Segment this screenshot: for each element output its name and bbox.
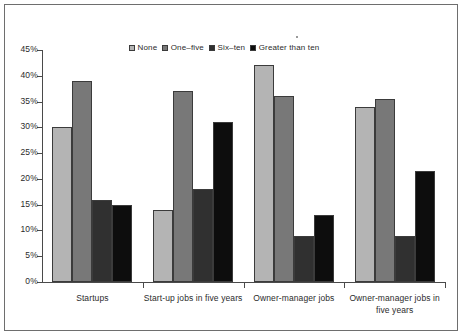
y-axis-tick-label: 45% xyxy=(20,44,38,54)
bar xyxy=(173,91,193,282)
bar xyxy=(193,189,213,282)
y-axis-tick-label: 5% xyxy=(25,250,38,260)
x-axis-group-label: Start-up jobs in five years xyxy=(143,292,244,304)
x-axis-tick-mark xyxy=(244,283,245,288)
bar xyxy=(294,236,314,282)
bar-group-bars xyxy=(143,50,244,282)
x-axis-tick-mark xyxy=(344,283,345,288)
x-axis-group-label: Startups xyxy=(42,292,143,304)
bar xyxy=(72,81,92,282)
scan-speck xyxy=(296,36,298,38)
bar xyxy=(213,122,233,282)
bar xyxy=(153,210,173,282)
bar-group-bars xyxy=(344,50,445,282)
y-axis-tick-label: 40% xyxy=(20,70,38,80)
x-axis-group-label: Owner-manager jobs in five years xyxy=(344,292,445,316)
y-axis-tick-label: 35% xyxy=(20,96,38,106)
bar-group-bars xyxy=(244,50,345,282)
bar xyxy=(415,171,435,282)
bar-group xyxy=(42,50,143,282)
bar-group xyxy=(344,50,445,282)
bar-group xyxy=(143,50,244,282)
x-axis-tick-mark xyxy=(143,283,144,288)
bar xyxy=(314,215,334,282)
y-axis-tick-label: 20% xyxy=(20,173,38,183)
y-axis-tick-label: 25% xyxy=(20,147,38,157)
bar xyxy=(254,65,274,282)
bar xyxy=(52,127,72,282)
bar xyxy=(355,107,375,282)
bar-group xyxy=(244,50,345,282)
bar xyxy=(92,200,112,282)
bar xyxy=(112,205,132,282)
y-axis-tick-label: 30% xyxy=(20,121,38,131)
x-axis-group-label: Owner-manager jobs xyxy=(244,292,345,304)
y-axis-tick-label: 15% xyxy=(20,199,38,209)
x-axis-tick-mark xyxy=(445,283,446,288)
bar xyxy=(395,236,415,282)
chart-figure: 0%5%10%15%20%25%30%35%40%45% NoneOne–fiv… xyxy=(0,0,462,335)
y-axis-tick-label: 10% xyxy=(20,224,38,234)
bar xyxy=(375,99,395,282)
bar xyxy=(274,96,294,282)
bar-group-bars xyxy=(42,50,143,282)
y-axis-tick-label: 0% xyxy=(25,276,38,286)
